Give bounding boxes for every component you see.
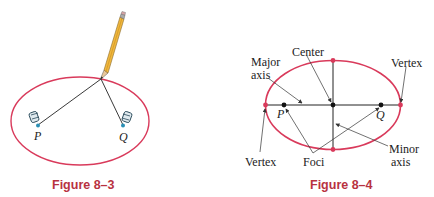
focus-q-point (379, 103, 384, 108)
figure-8-4: P Q Center Major axis Vertex Vertex Foci… (245, 45, 422, 192)
major-axis-leader (268, 78, 302, 103)
pushpin-q-icon (121, 111, 132, 128)
major-axis-label-line1: Major (251, 55, 280, 69)
pushpin-p-icon (29, 111, 40, 128)
foci-label: Foci (303, 155, 325, 169)
figures-canvas: P Q Figure 8–3 P Q (0, 0, 434, 197)
focus-q-label: Q (119, 130, 128, 144)
string-to-p (38, 79, 101, 125)
major-axis-label-line2: axis (251, 68, 271, 82)
center-leader (307, 56, 331, 102)
minor-axis-label-line2: axis (391, 155, 411, 169)
vertex-left-label: Vertex (245, 155, 276, 169)
covertex-bottom-point (331, 147, 336, 152)
center-point (331, 103, 336, 108)
vertex-right-label: Vertex (391, 56, 422, 70)
minor-axis-leader (336, 124, 388, 146)
foci-leader-p (286, 109, 313, 153)
figure-8-3: P Q Figure 8–3 (11, 12, 149, 193)
focus-p-label: P (276, 107, 285, 121)
figure-8-3-caption: Figure 8–3 (52, 178, 115, 192)
center-label: Center (292, 45, 324, 59)
covertex-top-point (331, 58, 336, 63)
pencil-icon (100, 12, 126, 81)
vertex-left-point (263, 103, 268, 108)
figure-8-4-caption: Figure 8–4 (310, 178, 373, 192)
string-to-q (101, 79, 123, 125)
focus-q-label: Q (376, 108, 385, 122)
vertex-right-leader (401, 67, 406, 102)
vertex-left-leader (260, 109, 265, 152)
minor-axis-label-line1: Minor (389, 142, 419, 156)
foci-leader-q (313, 108, 379, 153)
focus-p-label: P (33, 129, 42, 143)
vertex-right-point (398, 103, 403, 108)
